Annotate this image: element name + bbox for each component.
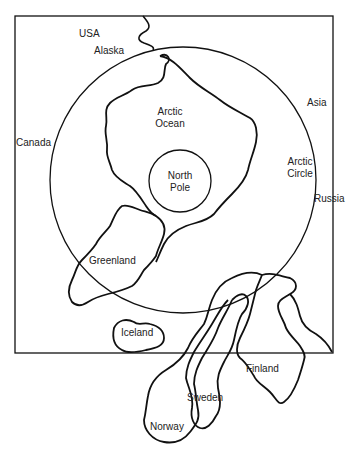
label-usa: USA	[79, 28, 100, 40]
label-arctic-circle-line2: Circle	[280, 168, 320, 180]
label-asia: Asia	[307, 97, 326, 109]
label-sweden: Sweden	[187, 392, 223, 404]
label-north-pole: North Pole	[160, 170, 200, 194]
label-arctic-ocean-line1: Arctic	[150, 106, 190, 118]
arctic-map	[0, 0, 359, 459]
label-north-pole-line2: Pole	[160, 182, 200, 194]
label-russia: Russia	[314, 193, 345, 205]
russia-border	[290, 294, 332, 352]
label-norway: Norway	[150, 421, 184, 433]
label-arctic-ocean-line2: Ocean	[150, 118, 190, 130]
label-arctic-circle-line1: Arctic	[280, 156, 320, 168]
finland-outline	[237, 274, 305, 403]
label-arctic-ocean: Arctic Ocean	[150, 106, 190, 130]
label-canada: Canada	[16, 137, 51, 149]
label-arctic-circle: Arctic Circle	[280, 156, 320, 180]
label-north-pole-line1: North	[160, 170, 200, 182]
label-greenland: Greenland	[89, 255, 136, 267]
arctic-ocean-coastline-east	[156, 56, 257, 262]
label-finland: Finland	[246, 363, 279, 375]
usa-alaska-border	[139, 16, 154, 50]
sweden-outline	[186, 294, 248, 428]
label-alaska: Alaska	[94, 45, 124, 57]
label-iceland: Iceland	[121, 327, 153, 339]
